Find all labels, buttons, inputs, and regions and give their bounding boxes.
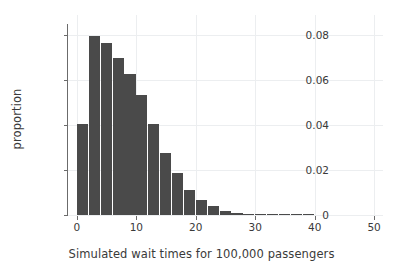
y-gridline bbox=[68, 35, 383, 36]
y-axis-title: proportion bbox=[10, 59, 24, 179]
histogram-bar bbox=[231, 213, 242, 215]
x-axis-tick-label: 50 bbox=[354, 222, 394, 233]
y-axis-tick-label: 0.06 bbox=[306, 75, 329, 86]
histogram-bar bbox=[303, 214, 314, 215]
histogram-bar bbox=[208, 206, 219, 215]
histogram-bar bbox=[243, 214, 254, 215]
histogram-bar bbox=[279, 214, 290, 215]
histogram-bar bbox=[220, 211, 231, 215]
x-gridline bbox=[255, 15, 256, 215]
y-axis-tick-label: 0.02 bbox=[306, 165, 329, 176]
x-axis-tick bbox=[136, 216, 137, 220]
histogram-bar bbox=[124, 74, 135, 215]
y-gridline bbox=[68, 215, 383, 216]
x-gridline bbox=[374, 15, 375, 215]
x-axis-tick bbox=[77, 216, 78, 220]
histogram-bar bbox=[101, 43, 112, 215]
x-axis-tick bbox=[255, 216, 256, 220]
histogram-figure: proportion 01020304050 Simulated wait ti… bbox=[0, 0, 403, 276]
histogram-bar bbox=[291, 214, 302, 215]
histogram-bar bbox=[255, 214, 266, 215]
histogram-bar bbox=[196, 200, 207, 215]
y-axis-tick-label: 0 bbox=[322, 210, 329, 221]
histogram-bar bbox=[160, 153, 171, 215]
x-axis-tick-label: 40 bbox=[295, 222, 335, 233]
x-axis-tick-label: 20 bbox=[176, 222, 216, 233]
x-axis-tick bbox=[374, 216, 375, 220]
y-axis-tick bbox=[64, 125, 68, 126]
x-axis-tick-label: 10 bbox=[116, 222, 156, 233]
histogram-bar bbox=[77, 124, 88, 215]
x-gridline bbox=[196, 15, 197, 215]
y-axis-tick bbox=[64, 35, 68, 36]
y-axis-tick bbox=[64, 170, 68, 171]
histogram-bar bbox=[172, 173, 183, 215]
histogram-bar bbox=[113, 58, 124, 215]
y-axis-tick bbox=[64, 80, 68, 81]
y-axis-tick-label: 0.04 bbox=[306, 120, 329, 131]
y-axis-tick-label: 0.08 bbox=[306, 30, 329, 41]
y-axis-tick bbox=[64, 215, 68, 216]
histogram-bar bbox=[89, 36, 100, 215]
histogram-bar bbox=[136, 95, 147, 215]
x-axis-tick bbox=[315, 216, 316, 220]
plot-area: 01020304050 bbox=[68, 15, 383, 215]
x-gridline bbox=[315, 15, 316, 215]
histogram-bar bbox=[267, 214, 278, 215]
histogram-bar bbox=[148, 124, 159, 215]
y-axis-line bbox=[67, 24, 68, 215]
histogram-bar bbox=[184, 190, 195, 215]
x-axis-tick-label: 0 bbox=[57, 222, 97, 233]
x-axis-tick-label: 30 bbox=[235, 222, 275, 233]
x-axis-title: Simulated wait times for 100,000 passeng… bbox=[0, 247, 403, 261]
x-axis-tick bbox=[196, 216, 197, 220]
